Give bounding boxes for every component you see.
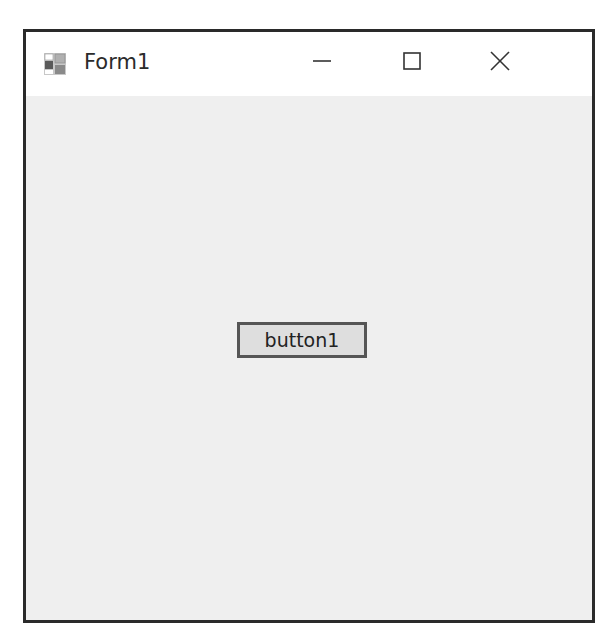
maximize-icon	[402, 51, 422, 75]
title-bar[interactable]: Form1	[26, 32, 592, 96]
close-icon	[489, 50, 511, 76]
button1[interactable]: button1	[237, 322, 367, 358]
close-button[interactable]	[474, 42, 526, 84]
minimize-button[interactable]	[296, 42, 348, 84]
form-window: Form1 button1	[23, 29, 595, 623]
minimize-icon	[312, 51, 332, 75]
window-title: Form1	[84, 50, 150, 74]
app-icon	[44, 53, 66, 75]
maximize-button[interactable]	[386, 42, 438, 84]
form-client-area: button1	[26, 96, 592, 620]
